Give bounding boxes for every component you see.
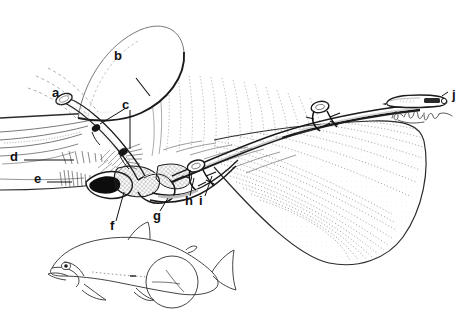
label-f: f — [110, 219, 114, 232]
label-g: g — [153, 209, 161, 222]
anatomical-figure: a b c d e f g h i j — [0, 0, 468, 320]
label-c: c — [122, 98, 129, 111]
label-i: i — [199, 194, 203, 207]
label-b: b — [114, 49, 122, 62]
label-e: e — [34, 172, 41, 185]
label-j: j — [452, 88, 456, 101]
label-h: h — [185, 194, 193, 207]
label-a: a — [52, 86, 59, 99]
line-drawing-canvas — [0, 0, 468, 320]
label-d: d — [10, 150, 18, 163]
